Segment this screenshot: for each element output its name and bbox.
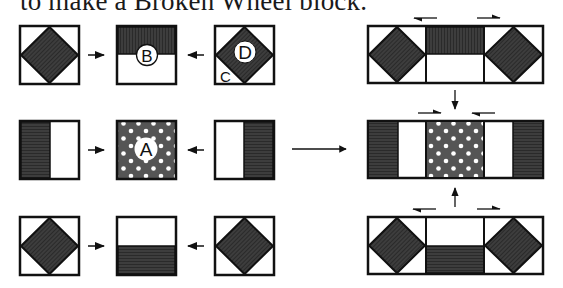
quilt-assembly-diagram: B D C A bbox=[0, 0, 563, 288]
block-half-bottom-r3c2 bbox=[117, 217, 176, 275]
block-square-in-square-r3c3 bbox=[215, 217, 274, 275]
label-D: D bbox=[238, 42, 252, 63]
label-A: A bbox=[140, 139, 153, 160]
block-half-right-r2c3 bbox=[215, 121, 274, 179]
block-B-half-top: B bbox=[117, 26, 176, 84]
label-B: B bbox=[141, 47, 152, 66]
block-half-left-r2c1 bbox=[20, 121, 79, 179]
assembly-row-bottom bbox=[368, 217, 543, 274]
block-A-dotted-center: A bbox=[117, 121, 176, 179]
block-square-in-square-r3c1 bbox=[20, 217, 79, 275]
assembly-row-middle bbox=[368, 121, 543, 178]
assembly-row-top bbox=[368, 26, 543, 83]
block-square-in-square-r1c1 bbox=[20, 26, 79, 84]
block-D-square-in-square: D C bbox=[215, 26, 274, 85]
label-C: C bbox=[220, 68, 231, 85]
